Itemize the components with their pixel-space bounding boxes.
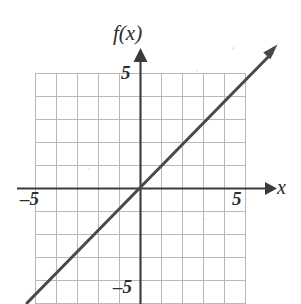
y-axis-arrowhead <box>134 48 148 62</box>
x-axis-tick-label-negative-5: –5 <box>20 188 39 210</box>
x-axis-arrowhead <box>265 182 277 195</box>
coordinate-plane-svg <box>0 0 301 304</box>
scan-speckle <box>232 47 235 50</box>
y-axis <box>134 48 148 304</box>
function-line-f-of-x <box>27 45 278 304</box>
scan-speckle <box>204 218 206 220</box>
function-line-arrowhead <box>263 45 277 60</box>
graph-figure: f(x) x 5 –5 –5 5 <box>0 0 301 304</box>
y-axis-tick-label-5: 5 <box>121 62 131 84</box>
y-axis-title: f(x) <box>113 21 142 46</box>
x-axis-title: x <box>277 176 286 199</box>
y-axis-tick-label-negative-5: –5 <box>113 276 132 298</box>
scan-speckle <box>196 70 198 72</box>
scan-speckle <box>88 168 90 170</box>
x-axis-tick-label-5: 5 <box>232 188 242 210</box>
